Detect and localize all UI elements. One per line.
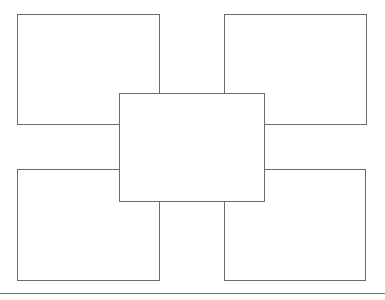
- organizer-box-center-label: [120, 94, 264, 201]
- organizer-box-center[interactable]: [119, 93, 265, 202]
- graphic-organizer: [0, 0, 385, 300]
- footer-divider: [0, 293, 385, 294]
- page-canvas: [0, 0, 385, 300]
